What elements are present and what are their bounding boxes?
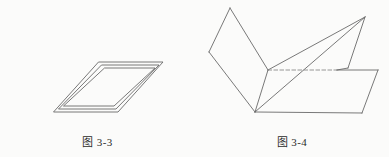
base-right-edge [362,70,378,113]
figure-3-3-caption-number: 3-3 [97,136,113,148]
figure-3-4-drawing [195,0,389,130]
figure-3-4-caption-number: 3-4 [291,136,307,148]
figure-3-4-caption: 图3-4 [195,133,389,149]
long-diagonal-edge [255,17,365,112]
figure-page: 图3-3 [0,0,389,157]
figure-3-3-block: 图3-3 [0,0,195,157]
upper-left-top-right-edge [230,8,268,70]
middle-parallelogram [59,65,159,109]
figure-3-4-block: 图3-4 [195,0,389,157]
inner-parallelogram [64,68,155,106]
upper-left-top-left-edge [209,8,230,52]
figure-3-3-caption-label: 图 [82,136,94,149]
outer-parallelogram [54,62,163,112]
base-bottom-edge [255,112,362,113]
figure-3-3-caption: 图3-3 [0,133,195,149]
figure-3-3-drawing [0,0,195,130]
fold-vertical-edge [255,70,268,112]
figure-3-4-caption-label: 图 [277,136,289,149]
upper-left-bottom-left-edge [209,52,255,112]
